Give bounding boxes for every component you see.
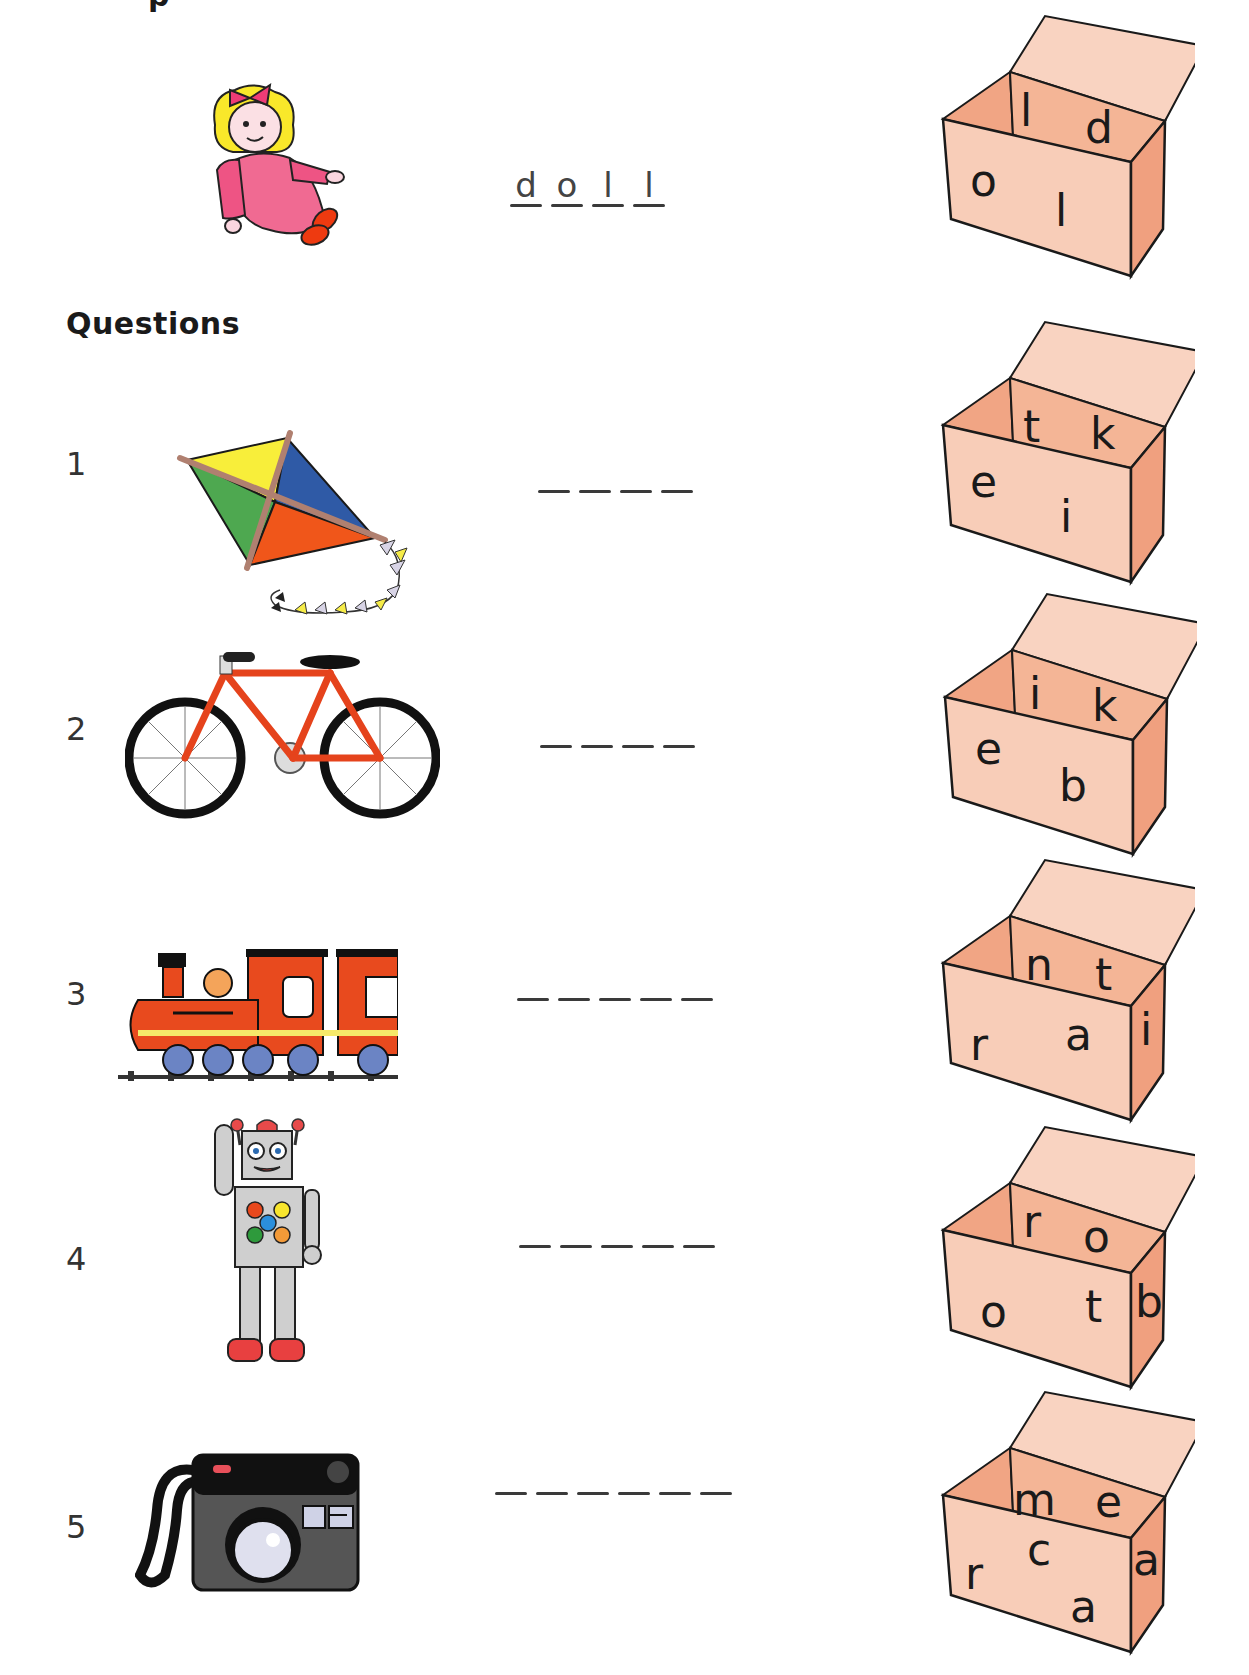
box-letter: i [1060, 495, 1072, 539]
box-letter: d [1085, 106, 1113, 150]
train-picture [118, 945, 398, 1089]
bike-picture [125, 648, 440, 832]
open-box-icon [935, 1125, 1195, 1395]
kite-icon [175, 430, 415, 630]
open-box-icon [935, 320, 1195, 590]
box-letter: o [1083, 1215, 1110, 1259]
box-letter: i [1029, 672, 1041, 716]
answer-blanks-4[interactable] [519, 1245, 715, 1248]
box-letter: m [1013, 1478, 1056, 1522]
camera-picture [135, 1450, 365, 1599]
answer-slot: o [551, 168, 583, 207]
box-letter: n [1025, 943, 1053, 987]
camera-icon [135, 1450, 365, 1595]
letter-box-example: l d o l [935, 14, 1195, 284]
question-number: 4 [66, 1240, 86, 1278]
box-letter: o [980, 1290, 1007, 1334]
train-icon [118, 945, 398, 1085]
box-letter: r [1023, 1200, 1041, 1244]
answer-slot: l [633, 168, 665, 207]
robot-icon [210, 1115, 335, 1375]
letter-box-1: t k e i [935, 320, 1195, 590]
box-letter: e [1095, 1480, 1122, 1524]
box-letter: l [1020, 89, 1032, 133]
question-number: 1 [66, 445, 86, 483]
box-letter: e [975, 727, 1002, 771]
box-letter: r [970, 1023, 988, 1067]
letter-box-3: n t r a i [935, 858, 1195, 1128]
box-letter: t [1095, 953, 1112, 997]
box-letter: i [1140, 1008, 1152, 1052]
box-letter: l [1055, 189, 1067, 233]
box-letter: b [1059, 764, 1087, 808]
question-number: 5 [66, 1508, 86, 1546]
answer-slot: l [592, 168, 624, 207]
answer-blanks-5[interactable] [495, 1492, 732, 1495]
box-letter: r [965, 1552, 983, 1596]
open-box-icon [935, 14, 1195, 284]
bicycle-icon [125, 648, 440, 828]
box-letter: c [1027, 1528, 1051, 1572]
question-number: 3 [66, 975, 86, 1013]
box-letter: a [1070, 1585, 1097, 1629]
box-letter: e [970, 460, 997, 504]
answer-blanks-1[interactable] [538, 490, 693, 493]
doll-icon [205, 80, 365, 260]
heading-fragment: p [148, 0, 178, 8]
open-box-icon [935, 1390, 1195, 1660]
robot-picture [210, 1115, 335, 1379]
box-letter: b [1135, 1280, 1163, 1324]
example-answer: d o l l [510, 168, 665, 207]
box-letter: t [1085, 1285, 1102, 1329]
answer-slot: d [510, 168, 542, 207]
box-letter: a [1065, 1013, 1092, 1057]
box-letter: k [1090, 412, 1115, 456]
letter-box-5: m e r c a a [935, 1390, 1195, 1660]
answer-blanks-3[interactable] [517, 998, 713, 1001]
letter-box-4: r o o t b [935, 1125, 1195, 1395]
box-letter: o [970, 159, 997, 203]
answer-blanks-2[interactable] [540, 745, 695, 748]
letter-box-2: i k e b [937, 592, 1197, 862]
kite-picture [175, 430, 415, 634]
box-letter: k [1092, 684, 1117, 728]
box-letter: a [1133, 1538, 1160, 1582]
open-box-icon [935, 858, 1195, 1128]
doll-picture [205, 80, 365, 264]
box-letter: t [1023, 405, 1040, 449]
section-title: Questions [66, 306, 240, 341]
question-number: 2 [66, 710, 86, 748]
